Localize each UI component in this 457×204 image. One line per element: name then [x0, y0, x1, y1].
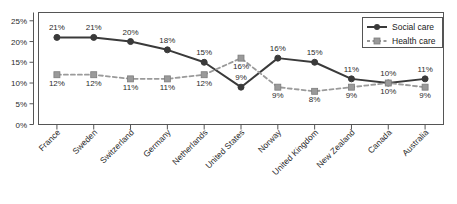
data-value-label: 21% [49, 23, 65, 32]
legend-label: Social care [392, 22, 434, 32]
data-point [54, 72, 60, 78]
y-tick-label: 15% [11, 58, 27, 67]
y-axis-ticks [30, 21, 34, 125]
data-value-label: 12% [86, 79, 102, 88]
x-tick-label: Germany [141, 127, 173, 159]
data-point [275, 55, 281, 61]
x-axis-ticks [57, 125, 425, 130]
data-point [312, 59, 318, 65]
data-value-label: 12% [49, 79, 65, 88]
data-point [91, 34, 97, 40]
data-value-label: 11% [123, 83, 138, 92]
data-value-label: 21% [86, 23, 102, 32]
data-point [348, 76, 354, 82]
data-point [128, 39, 134, 45]
data-value-label: 16% [270, 44, 286, 53]
line-chart: 0%5%10%15%20%25% FranceSwedenSwitzerland… [0, 0, 457, 204]
data-value-label: 8% [309, 95, 321, 104]
data-value-label: 16% [233, 62, 249, 71]
y-tick-label: 25% [11, 17, 27, 26]
data-value-label: 11% [160, 83, 175, 92]
x-tick-label: France [37, 127, 63, 153]
data-point [238, 84, 244, 90]
x-tick-label: Canada [366, 127, 394, 155]
data-value-label: 20% [123, 28, 139, 37]
x-tick-label: Sweden [70, 127, 99, 156]
x-tick-label: United States [203, 127, 246, 170]
data-point [385, 80, 391, 86]
data-value-label: 11% [417, 65, 432, 74]
data-point [422, 84, 428, 90]
legend-marker-circle-icon [374, 24, 380, 30]
data-point [164, 76, 170, 82]
data-value-label: 15% [196, 48, 212, 57]
data-value-label: 10% [380, 69, 396, 78]
data-point [238, 55, 244, 61]
x-tick-label: Norway [256, 127, 284, 155]
data-point [201, 59, 207, 65]
data-value-label: 12% [196, 79, 212, 88]
data-value-label: 9% [235, 73, 247, 82]
x-tick-label: Switzerland [98, 127, 136, 165]
data-point [164, 47, 170, 53]
y-tick-label: 20% [11, 38, 27, 47]
data-point [275, 84, 281, 90]
data-value-label: 11% [344, 65, 359, 74]
data-point [201, 72, 207, 78]
data-point [348, 84, 354, 90]
data-value-label: 10% [380, 87, 396, 96]
legend-marker-square-icon [374, 38, 380, 44]
y-axis-tick-labels: 0%5%10%15%20%25% [11, 17, 27, 130]
data-value-label: 15% [307, 48, 323, 57]
data-point [54, 34, 60, 40]
legend-label: Health care [392, 36, 436, 46]
data-point [312, 88, 318, 94]
x-tick-label: New Zealand [314, 127, 357, 170]
y-tick-label: 5% [15, 100, 27, 109]
data-value-label: 9% [346, 91, 358, 100]
data-point [91, 72, 97, 78]
x-tick-label: Netherlands [170, 127, 209, 166]
chart-legend[interactable]: Social careHealth care [363, 18, 443, 48]
chart-container: 0%5%10%15%20%25% FranceSwedenSwitzerland… [0, 0, 457, 204]
data-value-label: 9% [272, 91, 284, 100]
x-tick-label: Australia [400, 127, 431, 158]
data-value-label: 18% [159, 36, 175, 45]
data-point [128, 76, 134, 82]
data-point [422, 76, 428, 82]
data-value-label: 9% [419, 91, 431, 100]
y-tick-label: 10% [11, 79, 27, 88]
y-tick-label: 0% [15, 121, 27, 130]
x-axis-tick-labels: FranceSwedenSwitzerlandGermanyNetherland… [37, 127, 431, 177]
